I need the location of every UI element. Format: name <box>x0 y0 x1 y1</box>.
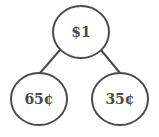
connector-left <box>40 50 60 73</box>
part-right-label: 35¢ <box>105 91 134 107</box>
part-left-label: 65¢ <box>24 91 53 107</box>
part-node-left: 65¢ <box>11 73 67 125</box>
connector-right <box>101 50 120 73</box>
part-node-right: 35¢ <box>92 73 148 125</box>
whole-label: $1 <box>71 24 90 40</box>
whole-node: $1 <box>53 6 109 58</box>
number-bond-diagram: $1 65¢ 35¢ <box>0 0 159 137</box>
